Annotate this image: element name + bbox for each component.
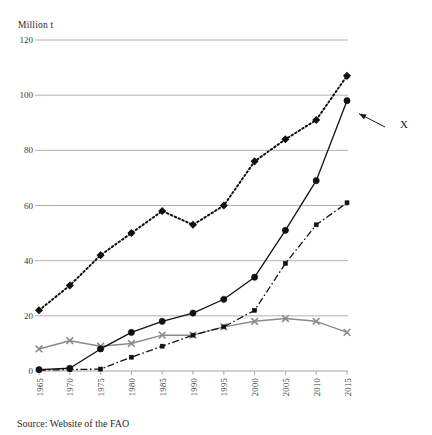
y-axis-tick-label-60: 60 (6, 201, 33, 211)
x-axis-tick-label-1985: 1985 (158, 378, 168, 396)
series-solid-circle-point-2000 (252, 274, 258, 280)
series-dashdot-square-point-1990 (191, 333, 195, 337)
series-dotted-diamond-point-1965 (36, 307, 43, 314)
series-solid-circle-point-1985 (159, 318, 165, 324)
x-axis-tick-label-2015: 2015 (343, 378, 353, 396)
series-dashdot-square-point-1985 (160, 344, 164, 348)
series-solid-circle-point-1990 (190, 310, 196, 316)
series-solid-circle-point-2005 (282, 227, 288, 233)
y-axis-tick-label-20: 20 (6, 311, 33, 321)
x-axis-tick-label-2005: 2005 (281, 378, 291, 396)
x-axis-tick-label-1975: 1975 (96, 378, 106, 396)
series-solid-circle-point-2015 (344, 98, 350, 104)
x-axis-tick-label-1980: 1980 (127, 378, 137, 396)
series-dotted-diamond-line (39, 76, 347, 310)
chart-figure: Million t 020406080100120 19651970197519… (0, 0, 432, 435)
series-dashdot-square-point-2015 (345, 201, 349, 205)
series-solid-circle-point-2010 (313, 178, 319, 184)
y-axis-tick-label-100: 100 (6, 90, 33, 100)
x-axis-tick-label-1995: 1995 (219, 378, 229, 396)
x-axis-tick-label-2000: 2000 (250, 378, 260, 396)
series-dashdot-square-point-1980 (129, 355, 133, 359)
source-note: Source: Website of the FAO (17, 418, 129, 429)
series-solid-circle-point-1965 (36, 367, 42, 373)
annotation-arrow-head (359, 114, 366, 120)
y-axis-tick-label-0: 0 (6, 366, 33, 376)
series-solid-circle-line (39, 101, 347, 370)
series-solid-circle (36, 98, 350, 373)
x-axis-tick-label-2010: 2010 (312, 378, 322, 396)
y-axis-tick-label-120: 120 (6, 35, 33, 45)
series-dashdot-square-point-1995 (222, 325, 226, 329)
x-axis-tick-label-1990: 1990 (189, 378, 199, 396)
series-dashdot-square-point-1975 (99, 367, 103, 371)
series-solid-circle-point-1995 (221, 296, 227, 302)
y-axis-tick-label-40: 40 (6, 256, 33, 266)
series-solid-circle-point-1970 (67, 365, 73, 371)
series-gray-cross-point-2015 (344, 329, 351, 336)
x-axis-tick-label-1970: 1970 (65, 378, 75, 396)
series-dotted-diamond (36, 73, 351, 314)
chart-plot-area (0, 0, 432, 435)
series-dashdot-square-point-2000 (253, 308, 257, 312)
series-solid-circle-point-1980 (128, 329, 134, 335)
series-solid-circle-point-1975 (98, 346, 104, 352)
x-axis-tick-label-1965: 1965 (35, 378, 45, 396)
series-dashdot-square-point-2005 (283, 261, 287, 265)
annotation-label-x: X (400, 118, 408, 130)
series-dashdot-square-point-2010 (314, 223, 318, 227)
annotation-arrow (359, 114, 385, 127)
y-axis-tick-label-80: 80 (6, 145, 33, 155)
